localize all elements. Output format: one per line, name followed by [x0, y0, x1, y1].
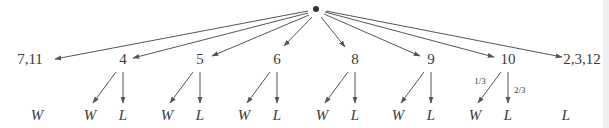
leaf-n5-w: W [161, 107, 175, 123]
leaf-n8-w: W [316, 107, 330, 123]
leaf-n10-w: W [469, 107, 483, 123]
node-label-n10: 10 [501, 51, 516, 67]
leaf-n6-l: L [272, 107, 281, 123]
edge-n5-to-w [170, 72, 193, 103]
edge-n4-to-w [93, 72, 116, 103]
leaf-n4-l: L [118, 107, 127, 123]
node-label-n8: 8 [351, 51, 359, 67]
prob-n10-w: 1/3 [474, 76, 486, 86]
leaf-n9-l: L [426, 107, 435, 123]
leaf-n10-l: L [503, 107, 512, 123]
leaf-n2312-l: L [561, 107, 570, 123]
edge-n8-to-w [325, 72, 348, 103]
leaf-n711-w: W [31, 107, 45, 123]
edges-layer [55, 11, 562, 103]
node-label-n2312: 2,3,12 [563, 51, 601, 67]
node-label-n711: 7,11 [17, 51, 43, 67]
leaf-n8-l: L [350, 107, 359, 123]
root-node-dot [313, 6, 319, 12]
node-label-n6: 6 [273, 51, 281, 67]
node-label-n4: 4 [119, 51, 127, 67]
edge-root-to-n6 [284, 17, 312, 46]
edge-n6-to-w [247, 72, 270, 103]
leaf-n9-w: W [392, 107, 406, 123]
node-label-n9: 9 [427, 51, 435, 67]
edge-root-to-n4 [133, 13, 308, 58]
leaf-n4-w: W [84, 107, 98, 123]
edge-root-to-n711 [55, 11, 308, 59]
leaf-n6-w: W [238, 107, 252, 123]
probability-tree-diagram: 7,11W4WL5WL6WL8WL9WL10WL1/32/32,3,12L [0, 0, 609, 128]
node-label-n5: 5 [196, 51, 204, 67]
leaf-n5-l: L [195, 107, 204, 123]
edge-root-to-n2312 [326, 11, 562, 57]
prob-n10-l: 2/3 [514, 85, 526, 95]
edge-n9-to-w [401, 72, 424, 103]
